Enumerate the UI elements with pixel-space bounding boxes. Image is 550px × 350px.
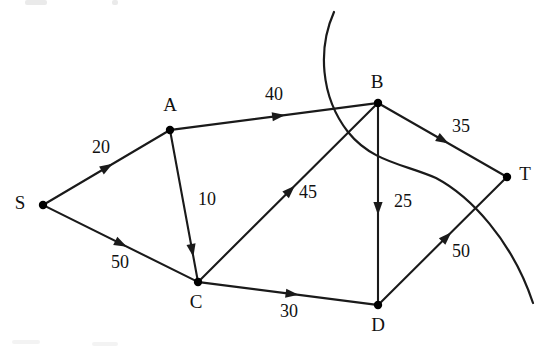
node-label-d: D <box>371 314 385 335</box>
node-dot-a <box>166 126 174 134</box>
node-label-b: B <box>371 71 384 92</box>
node-dot-s <box>39 201 47 209</box>
edge-layer <box>46 103 505 304</box>
node-dot-c <box>194 278 202 286</box>
node-label-t: T <box>519 163 531 184</box>
graph-node-b: B <box>371 71 384 107</box>
edge-c-b <box>200 105 376 280</box>
edge-weight-b-d: 25 <box>394 191 412 211</box>
node-dot-d <box>374 301 382 309</box>
node-layer: SABCDT <box>15 71 531 335</box>
arrowhead-s-a <box>99 164 113 175</box>
edge-weight-s-a: 20 <box>92 137 110 157</box>
arrowhead-a-c <box>186 243 195 257</box>
arrowhead-b-d <box>373 202 382 215</box>
handwritten-curve-overlay <box>324 12 533 303</box>
edge-weight-a-c: 10 <box>198 189 216 209</box>
graph-node-c: C <box>190 278 203 313</box>
edge-weight-d-t: 50 <box>452 241 470 261</box>
arrowhead-s-c <box>113 237 127 247</box>
scan-smudge-bottom-left <box>12 340 40 344</box>
graph-node-t: T <box>503 163 531 184</box>
node-label-c: C <box>190 291 203 312</box>
edge-b-d <box>373 106 382 302</box>
arrowhead-c-d <box>285 289 298 298</box>
node-label-a: A <box>163 94 177 115</box>
artifact-curve-layer <box>324 12 533 303</box>
graph-node-a: A <box>163 94 177 134</box>
arrowhead-b-t <box>435 133 449 143</box>
scan-smudge-top-mid <box>112 0 118 5</box>
edge-weight-b-t: 35 <box>452 116 470 136</box>
arrowhead-a-b <box>272 112 285 121</box>
edge-weight-a-b: 40 <box>265 84 283 104</box>
graph-figure: SABCDT 205040104530253550 <box>0 0 550 350</box>
scan-smudge-top-left <box>25 0 47 5</box>
edge-a-c <box>171 133 198 279</box>
node-dot-t <box>503 173 511 181</box>
edge-weight-c-b: 45 <box>299 182 317 202</box>
graph-node-s: S <box>15 192 47 213</box>
edge-weight-layer: 205040104530253550 <box>92 84 470 321</box>
scan-smudge-bottom-mid <box>92 342 118 346</box>
edge-weight-s-c: 50 <box>111 252 129 272</box>
node-dot-b <box>374 99 382 107</box>
graph-canvas: SABCDT 205040104530253550 <box>0 0 550 350</box>
node-label-s: S <box>15 192 26 213</box>
edge-weight-c-d: 30 <box>280 301 298 321</box>
graph-node-d: D <box>371 301 385 336</box>
